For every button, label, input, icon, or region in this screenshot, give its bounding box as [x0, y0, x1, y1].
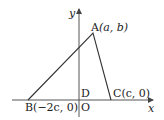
point-d-label: D — [81, 87, 90, 100]
point-c-label: C(c, 0) — [113, 87, 150, 100]
y-axis-label: y — [68, 7, 76, 20]
origin-label: O — [81, 101, 90, 114]
triangle-abc — [28, 33, 111, 100]
x-axis-label: x — [148, 102, 155, 115]
point-b-label: B(−2c, 0) — [25, 101, 78, 114]
triangle-diagram: y x A(a, b) B(−2c, 0) C(c, 0) D O — [0, 0, 164, 120]
point-a-label: A(a, b) — [90, 21, 128, 34]
